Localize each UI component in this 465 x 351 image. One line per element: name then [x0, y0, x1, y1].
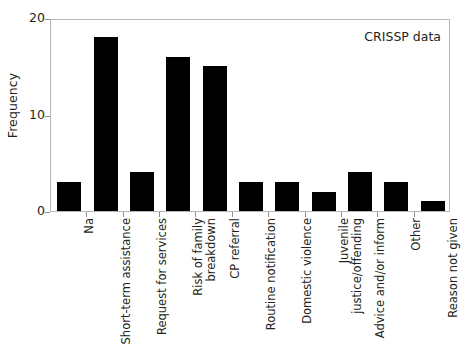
bar [203, 66, 227, 211]
x-tick-label: Advice and/or inform [374, 218, 404, 351]
bar [312, 192, 336, 211]
x-tick-label: Routine notification [265, 218, 295, 351]
x-tick-mark [195, 212, 196, 217]
x-tick-label: CP referral [229, 218, 259, 351]
plot-inner [51, 20, 449, 211]
x-tick-mark [86, 212, 87, 217]
bar [57, 182, 81, 211]
x-tick-label: Request for services [156, 218, 186, 351]
bar [384, 182, 408, 211]
y-tick-label: 0 [21, 205, 45, 218]
x-tick-mark [305, 212, 306, 217]
bar [348, 172, 372, 211]
bar [94, 37, 118, 211]
x-tick-mark [232, 212, 233, 217]
y-axis-ticks: 01020 [0, 0, 45, 351]
x-tick-label: Risk of family breakdown [192, 218, 222, 351]
x-tick-mark [377, 212, 378, 217]
x-tick-label: Short-term assistance [120, 218, 150, 351]
bar [130, 172, 154, 211]
chart-annotation: CRISSP data [364, 29, 441, 44]
plot-area: CRISSP data [50, 19, 450, 212]
y-tick-label: 20 [21, 12, 45, 25]
x-tick-mark [341, 212, 342, 217]
x-tick-mark [414, 212, 415, 217]
x-tick-mark [123, 212, 124, 217]
bar [275, 182, 299, 211]
x-tick-mark [268, 212, 269, 217]
x-tick-label: Na [83, 218, 113, 351]
x-axis-labels: NaShort-term assistanceRequest for servi… [50, 218, 450, 351]
x-tick-label: Juvenile justice/offending [338, 218, 368, 351]
x-tick-mark [159, 212, 160, 217]
x-tick-label: Domestic violence [301, 218, 331, 351]
bar [421, 201, 445, 211]
y-tick-label: 10 [21, 109, 45, 122]
x-tick-label: Other [410, 218, 440, 351]
bar [239, 182, 263, 211]
bar [166, 57, 190, 211]
x-tick-label: Reason not given [447, 218, 465, 351]
